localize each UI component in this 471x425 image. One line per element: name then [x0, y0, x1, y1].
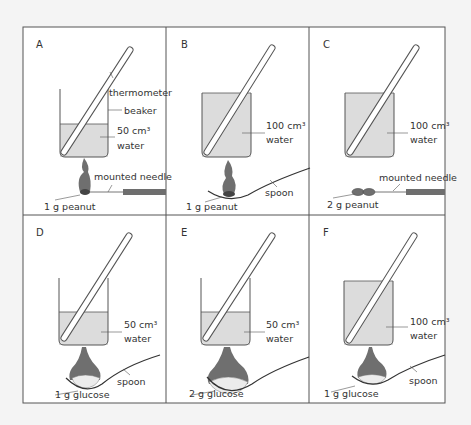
needle-handle [123, 189, 166, 195]
needle-handle [406, 189, 445, 195]
water-label: water [410, 330, 437, 341]
holder-label: spoon [409, 375, 438, 386]
volume-label: 100 cm³ [410, 120, 450, 131]
fuel-label: 2 g peanut [327, 199, 379, 210]
panel-letter: A [36, 39, 43, 50]
thermometer-label: thermometer [109, 87, 172, 98]
holder-label: mounted needle [379, 172, 457, 183]
water-label: water [410, 134, 437, 145]
panel-letter: C [323, 39, 330, 50]
volume-label: 50 cm³ [266, 319, 300, 330]
peanut [80, 189, 90, 195]
fuel-label: 1 g glucose [55, 389, 110, 400]
volume-label: 50 cm³ [124, 319, 158, 330]
beaker-label: beaker [124, 105, 157, 116]
fuel-label: 1 g peanut [186, 201, 238, 212]
holder-label: mounted needle [94, 171, 172, 182]
holder-label: spoon [117, 376, 146, 387]
fuel-label: 1 g peanut [44, 201, 96, 212]
water-label: water [266, 134, 293, 145]
water-label: water [117, 140, 144, 151]
water-label: water [124, 333, 151, 344]
peanut [223, 191, 235, 197]
panel-letter: D [36, 227, 44, 238]
panel-letter: F [323, 227, 329, 238]
water-label: water [266, 333, 293, 344]
fuel-label: 2 g glucose [189, 388, 244, 399]
panel-letter: B [181, 39, 188, 50]
volume-label: 100 cm³ [410, 316, 450, 327]
volume-label: 50 cm³ [117, 125, 151, 136]
experiment-figure: A thermometer beaker 50 cm³ water mounte… [0, 0, 471, 425]
fuel-label: 1 g glucose [324, 388, 379, 399]
holder-label: spoon [265, 187, 294, 198]
volume-label: 100 cm³ [266, 120, 306, 131]
peanut [363, 189, 375, 196]
panel-letter: E [181, 227, 187, 238]
